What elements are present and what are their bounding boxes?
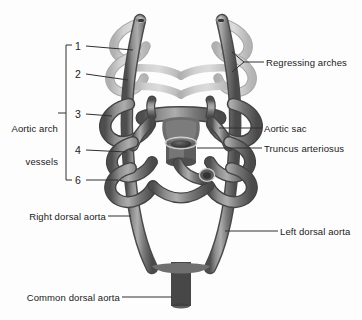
arch-number-3: 3: [72, 108, 84, 120]
aortic-arch-vessels-label-line1: Aortic arch: [6, 123, 58, 134]
aortic-sac-label: Aortic sac: [264, 123, 307, 134]
arch-number-4: 4: [72, 144, 84, 156]
truncus-arteriosus-label: Truncus arteriosus: [264, 143, 344, 154]
arch-number-1: 1: [72, 40, 84, 52]
arch-number-6: 6: [72, 174, 84, 186]
figure-canvas: Aortic arch vessels 1 2 3 4 6 Regressing…: [0, 0, 362, 320]
cut-vessel-ends-top: [136, 17, 227, 23]
aortic-arch-vessels-label-line2: vessels: [6, 156, 58, 167]
common-dorsal-aorta-label: Common dorsal aorta: [8, 292, 120, 303]
right-dorsal-aorta-label: Right dorsal aorta: [10, 211, 106, 222]
aortic-arch-vessels-label: Aortic arch vessels: [6, 101, 58, 189]
left-dorsal-aorta-label: Left dorsal aorta: [280, 226, 350, 237]
arch-number-2: 2: [72, 68, 84, 80]
regressing-arches-label: Regressing arches: [266, 57, 347, 68]
